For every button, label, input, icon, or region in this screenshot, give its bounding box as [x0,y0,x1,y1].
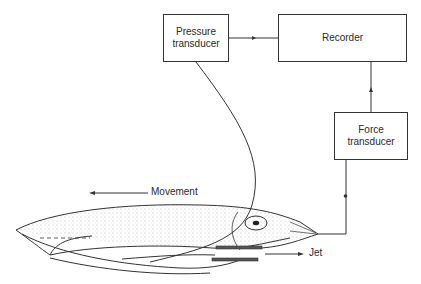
movement-arrow [89,191,148,195]
pressure-transducer-box: Pressure transducer [163,14,229,62]
diagram-canvas: Pressure transducer Recorder Force trans… [0,0,421,284]
pressure-to-recorder-arrow [229,36,278,40]
force-transducer-box: Force transducer [334,112,408,160]
force-transducer-label-line2: transducer [347,136,394,148]
pressure-transducer-label-line2: transducer [172,38,219,50]
squid-illustration [16,205,318,274]
force-to-recorder-arrow [369,62,373,112]
movement-label: Movement [151,186,198,197]
jet-arrow [265,252,304,256]
force-transducer-label-line1: Force [358,124,384,136]
jet-label: Jet [309,247,322,258]
recorder-label: Recorder [322,32,363,44]
recorder-box: Recorder [278,14,407,62]
pressure-transducer-label-line1: Pressure [176,26,216,38]
force-transducer-lead [318,160,347,234]
